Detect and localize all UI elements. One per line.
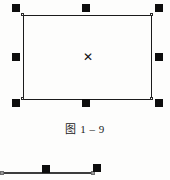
resize-handle-top-right[interactable] (155, 4, 163, 12)
resize-handle-top-center[interactable] (82, 4, 90, 12)
vertex-bottom-right-marker (150, 97, 153, 100)
resize-handle-middle-right[interactable] (155, 53, 163, 61)
resize-handle-middle-left[interactable] (12, 53, 20, 61)
line-handle-endpoint[interactable] (93, 164, 101, 172)
line-endpoint-left-marker (0, 171, 4, 175)
vertex-top-left-marker (21, 13, 24, 16)
center-cross-icon: ✕ (81, 50, 95, 64)
resize-handle-bottom-center[interactable] (82, 99, 90, 107)
figure-canvas: ✕ 图 1 – 9 (0, 0, 170, 180)
resize-handle-bottom-left[interactable] (12, 99, 20, 107)
line-handle-midpoint[interactable] (42, 165, 50, 173)
figure-caption: 图 1 – 9 (0, 120, 170, 136)
resize-handle-top-left[interactable] (12, 4, 20, 12)
vertex-top-right-marker (150, 13, 153, 16)
resize-handle-bottom-right[interactable] (155, 99, 163, 107)
vertex-bottom-left-marker (21, 97, 24, 100)
